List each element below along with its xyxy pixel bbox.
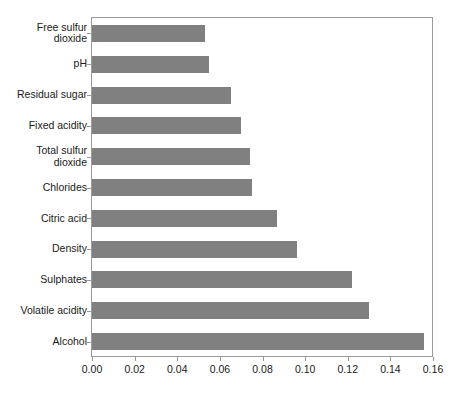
- x-axis-tick-label: 0.02: [115, 363, 155, 376]
- y-axis-tick: [87, 95, 91, 96]
- bar: [92, 87, 231, 104]
- x-axis-tick: [92, 357, 93, 361]
- bar: [92, 25, 205, 42]
- bars-layer: [92, 18, 433, 357]
- bar: [92, 271, 352, 288]
- y-axis-tick: [87, 157, 91, 158]
- y-axis-label: Citric acid: [0, 213, 87, 225]
- x-axis-tick-label: 0.06: [200, 363, 240, 376]
- y-axis-label: Free sulfur dioxide: [0, 22, 87, 45]
- y-axis-label: Alcohol: [0, 336, 87, 348]
- x-axis-tick-label: 0.04: [157, 363, 197, 376]
- y-axis-tick: [87, 280, 91, 281]
- y-axis-tick: [87, 249, 91, 250]
- y-axis-tick: [87, 126, 91, 127]
- x-axis-tick-label: 0.14: [370, 363, 410, 376]
- x-axis-tick: [135, 357, 136, 361]
- y-axis-tick: [87, 311, 91, 312]
- x-axis-tick-label: 0.12: [328, 363, 368, 376]
- x-axis-tick: [348, 357, 349, 361]
- y-axis-tick: [87, 188, 91, 189]
- bar: [92, 241, 297, 258]
- bar: [92, 117, 241, 134]
- x-axis-tick-label: 0.08: [243, 363, 283, 376]
- y-axis-label: Residual sugar: [0, 89, 87, 101]
- y-axis-label: Density: [0, 243, 87, 255]
- y-axis-label: Total sulfur dioxide: [0, 145, 87, 168]
- x-axis-tick-label: 0.16: [413, 363, 451, 376]
- y-axis-label: pH: [0, 58, 87, 70]
- x-axis-tick: [390, 357, 391, 361]
- x-axis-tick: [220, 357, 221, 361]
- bar: [92, 333, 424, 350]
- bar: [92, 179, 252, 196]
- bar: [92, 302, 369, 319]
- x-axis-tick: [305, 357, 306, 361]
- y-axis-label: Fixed acidity: [0, 120, 87, 132]
- x-axis-tick: [263, 357, 264, 361]
- y-axis-label: Volatile acidity: [0, 305, 87, 317]
- bar: [92, 148, 250, 165]
- y-axis-label: Chlorides: [0, 182, 87, 194]
- y-axis-tick: [87, 218, 91, 219]
- y-axis-tick: [87, 33, 91, 34]
- y-axis-tick: [87, 342, 91, 343]
- x-axis-tick-label: 0.10: [285, 363, 325, 376]
- y-axis-tick: [87, 64, 91, 65]
- x-axis-tick-label: 0.00: [72, 363, 112, 376]
- x-axis-tick: [177, 357, 178, 361]
- y-axis-label: Sulphates: [0, 274, 87, 286]
- x-axis-tick: [433, 357, 434, 361]
- bar: [92, 210, 277, 227]
- bar: [92, 56, 209, 73]
- y-axis-category-labels: Free sulfur dioxidepHResidual sugarFixed…: [0, 18, 87, 357]
- feature-importance-bar-chart: Free sulfur dioxidepHResidual sugarFixed…: [0, 0, 451, 398]
